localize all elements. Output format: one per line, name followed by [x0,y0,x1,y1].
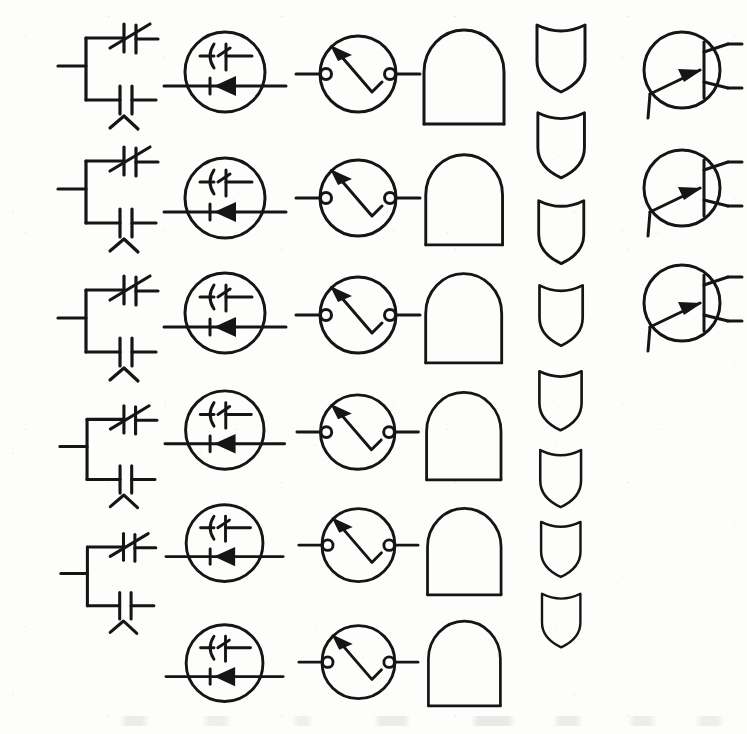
encircled-zigzag-arrow-switch-3 [294,269,422,361]
arch-outline-2 [420,147,508,249]
parallel-capacitor-network-4 [56,398,161,513]
encircled-bjt-transistor-2 [630,140,742,240]
arch-outline-1 [418,22,510,128]
shield-outline-1 [532,19,590,97]
shield-outline-5 [535,366,586,435]
shield-outline-4 [535,280,587,350]
shield-outline-8 [538,589,584,651]
encircled-capacitor-diode-3 [164,267,286,359]
parallel-capacitor-network-1 [54,16,162,134]
arch-outline-6 [423,614,506,709]
encircled-capacitor-diode-2 [164,152,286,244]
encircled-capacitor-diode-5 [166,499,283,587]
cropped-caption-smudge [0,716,747,726]
arch-outline-5 [422,501,507,599]
shield-outline-2 [533,107,589,183]
shield-outline-6 [536,445,585,511]
encircled-capacitor-diode-4 [165,385,285,475]
encircled-bjt-transistor-3 [630,255,742,355]
arch-outline-4 [421,385,507,484]
parallel-capacitor-network-3 [54,268,162,386]
encircled-zigzag-arrow-switch-2 [294,152,422,244]
encircled-capacitor-diode-6 [166,619,283,707]
encircled-capacitor-diode-1 [164,26,286,118]
encircled-zigzag-arrow-switch-4 [295,387,420,477]
encircled-zigzag-arrow-switch-1 [294,28,422,120]
parallel-capacitor-network-5 [57,526,160,638]
shield-outline-7 [537,517,585,581]
shield-outline-3 [534,195,589,268]
scan-page [0,0,747,734]
encircled-zigzag-arrow-switch-6 [297,618,420,706]
arch-outline-3 [420,266,507,367]
encircled-bjt-transistor-1 [630,22,742,122]
encircled-zigzag-arrow-switch-5 [297,501,420,589]
parallel-capacitor-network-2 [54,139,162,257]
